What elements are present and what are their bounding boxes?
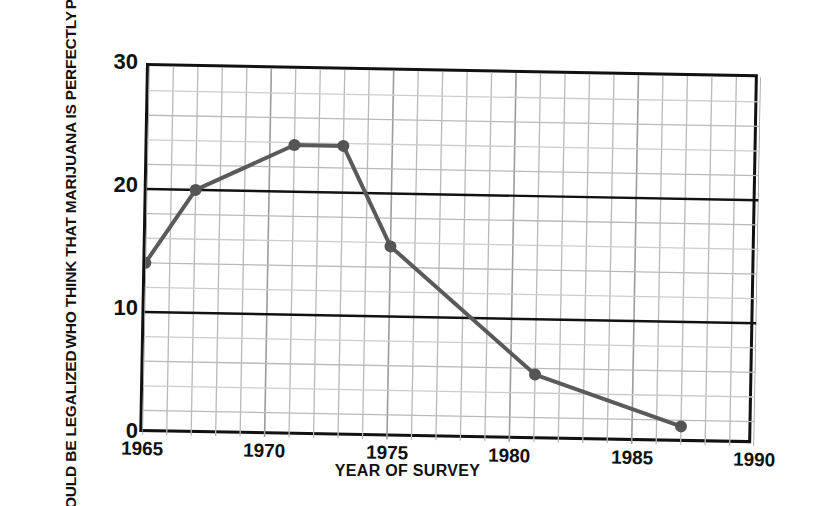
- x-tick-label: 1970: [243, 441, 286, 462]
- x-axis-tick-labels: 196519701975198019851990: [0, 0, 815, 506]
- chart-figure: PERCENTAGE OF COLLEGE STUDENTS WHO THINK…: [0, 0, 815, 506]
- x-tick-label: 1975: [366, 443, 409, 464]
- x-tick-label: 1965: [121, 439, 164, 460]
- x-axis-title: YEAR OF SURVEY: [0, 462, 815, 480]
